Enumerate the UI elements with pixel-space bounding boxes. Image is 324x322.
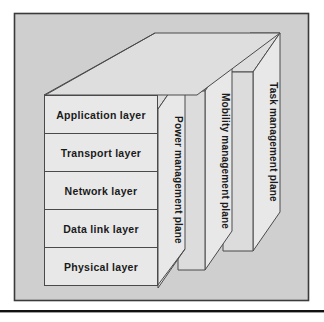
protocol-stack-diagram: Application layer Transport layer Networ… [0, 0, 324, 322]
plane-label-task: Task management plane [268, 82, 279, 202]
protocol-layer-stack: Application layer Transport layer Networ… [45, 96, 158, 286]
layer-label-transport: Transport layer [61, 147, 141, 159]
plane-label-mobility: Mobility management plane [220, 93, 231, 229]
layer-label-network: Network layer [65, 185, 138, 197]
plane-label-power: Power management plane [173, 116, 184, 244]
layer-label-physical: Physical layer [64, 261, 138, 273]
bottom-rule [0, 310, 324, 312]
figure-root: Application layer Transport layer Networ… [0, 0, 324, 322]
layer-label-application: Application layer [56, 109, 146, 121]
layer-label-datalink: Data link layer [63, 223, 139, 235]
